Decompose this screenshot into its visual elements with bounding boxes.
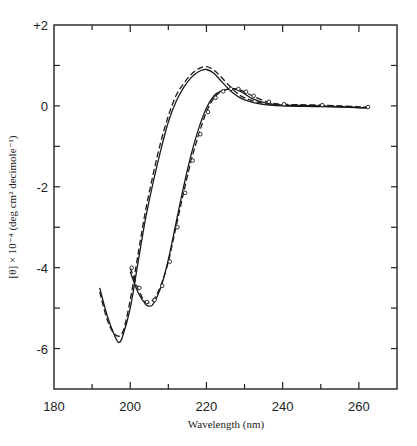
x-tick-label: 180	[43, 399, 65, 414]
x-tick-label: 200	[119, 399, 141, 414]
cd-spectrum-chart: 180200220240260+20-2-4-6 Wavelength (nm)…	[0, 0, 417, 446]
data-point-marker	[214, 96, 218, 100]
data-point-marker	[267, 100, 271, 104]
data-point-marker	[229, 87, 233, 91]
x-tick-label: 240	[272, 399, 294, 414]
data-point-marker	[366, 105, 370, 109]
series-line	[100, 69, 367, 342]
data-point-marker	[252, 94, 256, 98]
data-point-marker	[191, 159, 195, 163]
axis-ticks: 180200220240260+20-2-4-6	[33, 18, 397, 414]
data-point-marker	[199, 132, 203, 136]
plot-border	[54, 25, 397, 389]
data-point-marker	[153, 298, 157, 302]
y-tick-label: +2	[33, 18, 48, 33]
data-point-marker	[160, 284, 164, 288]
y-tick-label: 0	[41, 99, 48, 114]
y-tick-label: -4	[36, 261, 48, 276]
x-tick-label: 220	[196, 399, 218, 414]
data-point-marker	[145, 300, 149, 304]
data-point-marker	[244, 90, 248, 94]
plot-frame	[54, 25, 397, 389]
x-axis-title: Wavelength (nm)	[188, 418, 265, 431]
data-point-marker	[176, 225, 180, 229]
data-point-marker	[138, 286, 142, 290]
data-point-marker	[282, 102, 286, 106]
y-tick-label: -6	[36, 342, 48, 357]
data-point-marker	[183, 191, 187, 195]
y-axis-title: [θ] × 10⁻⁴ (deg cm² decimole⁻¹)	[6, 135, 19, 278]
data-series	[100, 67, 370, 343]
data-point-marker	[237, 87, 241, 91]
series-line	[130, 89, 366, 307]
data-point-marker	[168, 260, 172, 264]
data-point-marker	[320, 103, 324, 107]
data-point-marker	[130, 266, 134, 270]
x-tick-label: 260	[348, 399, 370, 414]
y-tick-label: -2	[36, 180, 48, 195]
data-point-marker	[206, 110, 210, 114]
data-point-marker	[221, 90, 225, 94]
